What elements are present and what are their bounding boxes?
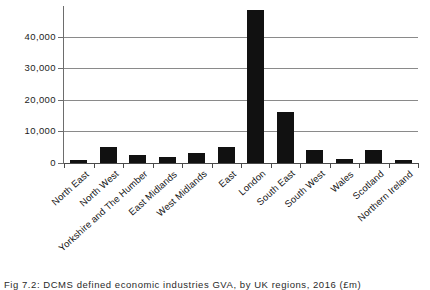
bar-south-east	[277, 112, 294, 163]
bar-yorkshire-and-the-humber	[129, 155, 146, 163]
bar-north-west	[100, 147, 117, 163]
bar-south-west	[306, 150, 323, 163]
figure-caption: Fig 7.2: DCMS defined economic industrie…	[4, 279, 428, 290]
x-axis-category-labels: North EastNorth WestYorkshire and The Hu…	[0, 163, 430, 283]
bar-london	[247, 10, 264, 163]
bar-east	[218, 147, 235, 163]
bar-west-midlands	[188, 153, 205, 163]
y-axis-label-10000: 10,000	[0, 126, 56, 136]
bar-scotland	[365, 150, 382, 163]
y-axis-label-40000: 40,000	[0, 32, 56, 42]
y-axis-label-20000: 20,000	[0, 95, 56, 105]
chart-figure: 40,000 30,000 20,000 10,000 0 North East…	[0, 0, 430, 290]
bar-series	[64, 6, 418, 163]
x-axis-label-east: East	[217, 169, 238, 189]
x-axis-label-northern-ireland: Northern Ireland	[356, 169, 415, 223]
y-axis-label-30000: 30,000	[0, 63, 56, 73]
